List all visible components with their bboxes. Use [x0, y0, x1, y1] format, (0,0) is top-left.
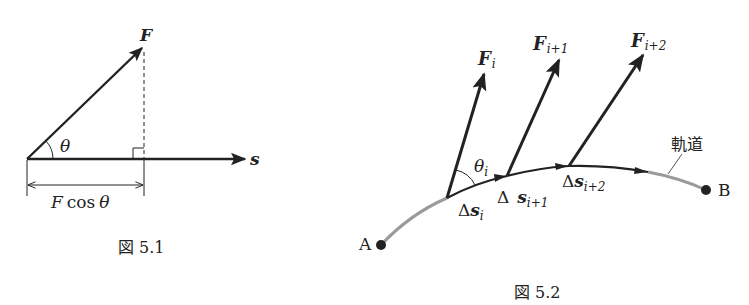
point-B [701, 185, 711, 195]
segment-arrowhead-i-plus-1 [555, 163, 568, 170]
force-vector-F [27, 48, 142, 159]
label-B: B [718, 180, 731, 200]
segment-arrowhead-i [494, 174, 506, 182]
displacement-label-s-i-plus-1: Δsi+1 [497, 187, 548, 210]
right-angle-mark [133, 148, 144, 159]
displacement-label-s-i: Δsi [458, 200, 484, 223]
force-vector-F-i [447, 74, 484, 198]
segment-arrowhead-i-plus-2 [634, 167, 648, 174]
figure-caption-5-1: 図 5.1 [118, 238, 165, 257]
force-label-F-i-plus-1: Fi+1 [532, 33, 568, 56]
force-label-F: F [139, 25, 154, 45]
displacement-label-s-i-plus-2: Δsi+2 [562, 171, 605, 194]
trajectory-gray-end [648, 172, 706, 190]
angle-label-theta-i: θi [474, 156, 488, 179]
figure-caption-5-2: 図 5.2 [514, 283, 561, 302]
trajectory-leader-line [668, 154, 682, 174]
point-A [376, 240, 386, 250]
figure-5-1: F s θ Fcosθ 図 5.1 [27, 25, 260, 257]
force-label-F-i-plus-2: Fi+2 [630, 30, 666, 53]
displacement-label-s: s [249, 149, 260, 169]
figure-5-2: Fi Fi+1 Fi+2 θi Δsi Δsi+1 Δsi+2 軌道 A B 図… [358, 30, 731, 302]
label-A: A [358, 234, 372, 254]
angle-arc-theta-i [456, 170, 475, 185]
trajectory-gray-start [381, 198, 447, 245]
angle-arc [46, 141, 53, 159]
projection-label: Fcosθ [50, 192, 110, 212]
force-label-F-i: Fi [477, 48, 496, 71]
force-vector-F-i-plus-2 [569, 55, 643, 166]
angle-label-theta: θ [60, 136, 70, 156]
diagram-canvas: F s θ Fcosθ 図 5.1 Fi [0, 0, 749, 305]
force-vector-F-i-plus-1 [507, 60, 559, 176]
trajectory-label: 軌道 [671, 135, 703, 154]
